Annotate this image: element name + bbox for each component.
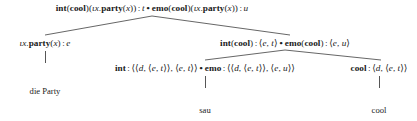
vline-np-dieparty (45, 51, 46, 63)
root-bullet: • (145, 3, 152, 13)
vp-emo-operator: emo (285, 38, 301, 48)
root-emo-operator: emo (152, 3, 168, 13)
root-iota-2: ιx (194, 3, 201, 13)
tree-branch-lines (0, 0, 417, 121)
vp-type-et: ⟨e, t⟩ (259, 38, 278, 48)
lex-emo-type: ⟨⟨d, ⟨e, t⟩⟩, ⟨e, u⟩⟩ (227, 63, 295, 73)
np-iota: ιx (20, 38, 27, 48)
root-int-operator: int (56, 3, 67, 13)
root-paren-4: )) (130, 3, 136, 13)
vp-int-operator: int (220, 38, 231, 48)
vp-bullet: • (278, 38, 285, 48)
lex-int-type: ⟨⟨d, ⟨e, t⟩⟩, ⟨e, t⟩⟩ (131, 63, 197, 73)
lex-cool-operator: cool (351, 63, 367, 73)
root-type-u: u (244, 3, 249, 13)
leaf-sau: sau (199, 105, 210, 115)
lex-int-bullet: • (198, 63, 205, 73)
leaf-die-party: die Party (30, 86, 61, 96)
root-iota-1: ιx (92, 3, 99, 13)
root-cool-arg-1: cool (70, 3, 86, 13)
np-node: ιx.party(x):e (20, 38, 71, 49)
vp-node: int(cool):⟨e, t⟩•emo(cool):⟨e, u⟩ (220, 38, 350, 49)
derivation-tree-figure: int(cool)(ιx.party(x)):t•emo(cool)(ιx.pa… (0, 0, 417, 121)
cool-lexical-node: cool:⟨d, ⟨e, t⟩⟩ (351, 63, 408, 74)
edge-root-left (45, 16, 152, 35)
leaf-cool: cool (372, 105, 387, 115)
vline-cool-cool (379, 76, 380, 88)
edge-root-right (152, 16, 290, 35)
lex-int-operator: int (115, 63, 126, 73)
vline-int-sau (205, 76, 206, 88)
lex-emo-operator: emo (205, 63, 221, 73)
np-party: party (29, 38, 51, 48)
np-type-e: e (66, 38, 70, 48)
lex-cool-type: ⟨d, ⟨e, t⟩⟩ (372, 63, 407, 73)
int-lexical-node: int:⟨⟨d, ⟨e, t⟩⟩, ⟨e, t⟩⟩•emo:⟨⟨d, ⟨e, t… (115, 63, 295, 74)
root-cool-arg-2: cool (171, 3, 187, 13)
root-node: int(cool)(ιx.party(x)):t•emo(cool)(ιx.pa… (56, 3, 248, 14)
edge-vp-left (205, 50, 285, 60)
vp-type-eu: ⟨e, u⟩ (329, 38, 350, 48)
edge-vp-right (285, 50, 381, 60)
root-party-1: party (101, 3, 123, 13)
vp-cool-arg-1: cool (234, 38, 250, 48)
vp-cool-arg-2: cool (304, 38, 320, 48)
root-party-2: party (203, 3, 225, 13)
